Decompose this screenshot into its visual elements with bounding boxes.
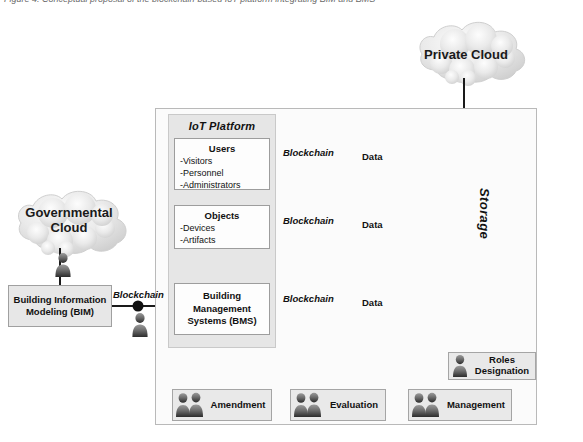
person-icon-bim-blockchain bbox=[130, 312, 150, 338]
iot-platform-title: IoT Platform bbox=[168, 120, 276, 132]
people-icon-management bbox=[411, 392, 441, 418]
blockchain-label-users: Blockchain bbox=[283, 147, 334, 158]
people-icon-amendment bbox=[175, 392, 205, 418]
users-item: -Visitors bbox=[180, 156, 269, 168]
bms-heading: Building Management Systems (BMS) bbox=[175, 284, 269, 334]
roles-designation-box[interactable]: Roles Designation bbox=[448, 352, 536, 380]
private-cloud-label: Private Cloud bbox=[404, 48, 528, 63]
objects-list: -Devices -Artifacts bbox=[175, 221, 269, 247]
objects-heading: Objects bbox=[175, 206, 269, 221]
person-icon-roles bbox=[451, 354, 469, 378]
objects-item: -Artifacts bbox=[180, 235, 269, 247]
amendment-box[interactable]: Amendment bbox=[172, 389, 272, 421]
governmental-cloud-label: Governmental Cloud bbox=[8, 206, 130, 236]
objects-block[interactable]: Objects -Devices -Artifacts bbox=[174, 205, 270, 249]
users-list: -Visitors -Personnel -Administrators bbox=[175, 154, 269, 192]
users-heading: Users bbox=[175, 139, 269, 154]
data-label-bms: Data bbox=[362, 297, 383, 308]
storage-label: Storage bbox=[477, 188, 492, 239]
blockchain-label-bim: Blockchain bbox=[113, 289, 164, 300]
data-label-objects: Data bbox=[362, 219, 383, 230]
users-block[interactable]: Users -Visitors -Personnel -Administrato… bbox=[174, 138, 270, 190]
users-item: -Administrators bbox=[180, 180, 269, 192]
objects-item: -Devices bbox=[180, 223, 269, 235]
management-label: Management bbox=[443, 400, 511, 411]
bms-block[interactable]: Building Management Systems (BMS) bbox=[174, 283, 270, 335]
private-cloud: Private Cloud bbox=[404, 22, 528, 102]
evaluation-box[interactable]: Evaluation bbox=[290, 389, 386, 421]
users-item: -Personnel bbox=[180, 168, 269, 180]
person-icon-gov-link bbox=[53, 252, 73, 278]
management-box[interactable]: Management bbox=[408, 389, 512, 421]
diagram-canvas: IoT Platform Users -Visitors -Personnel … bbox=[0, 0, 583, 442]
amendment-label: Amendment bbox=[207, 400, 271, 411]
blockchain-label-bms: Blockchain bbox=[283, 293, 334, 304]
bim-label: Building Information Modeling (BIM) bbox=[9, 294, 111, 319]
blockchain-node-bim bbox=[133, 301, 144, 312]
roles-designation-label: Roles Designation bbox=[471, 355, 535, 377]
people-icon-evaluation bbox=[293, 392, 323, 418]
bim-box[interactable]: Building Information Modeling (BIM) bbox=[8, 285, 112, 327]
blockchain-label-objects: Blockchain bbox=[283, 215, 334, 226]
evaluation-label: Evaluation bbox=[325, 400, 385, 411]
data-label-users: Data bbox=[362, 151, 383, 162]
